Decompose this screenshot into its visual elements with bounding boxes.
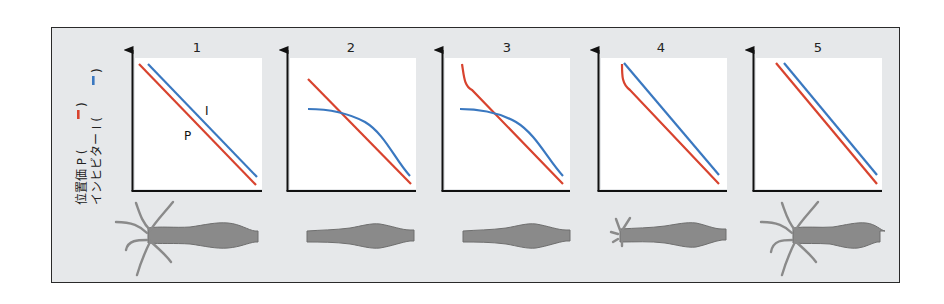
label-I: I — [205, 104, 209, 118]
panel-number: 4 — [657, 40, 665, 55]
svg-text:): ) — [75, 102, 89, 107]
plot-area — [135, 58, 262, 189]
panel-4: 4 — [598, 40, 728, 191]
panel-number: 3 — [503, 40, 511, 55]
figure-canvas: 位置価 P ( ) インヒビター I ( ) 1 I P 2 3 — [0, 0, 944, 304]
hydra-with-tentacles-icon — [761, 202, 885, 275]
plot-area — [601, 58, 727, 189]
svg-text:): ) — [90, 68, 104, 73]
legend-red-swatch-icon — [77, 110, 80, 119]
svg-text:位置価 P (: 位置価 P ( — [74, 149, 89, 205]
panel-5: 5 — [753, 40, 883, 191]
panel-number: 2 — [347, 40, 355, 55]
hydra-headless-body-icon — [307, 224, 414, 248]
panel-number: 5 — [814, 40, 822, 55]
hydra-regenerating-head-icon — [611, 218, 726, 247]
organism-row — [116, 202, 885, 275]
y-label-inhibitor: インヒビター I ( — [90, 117, 104, 205]
panel-1: 1 I P — [132, 40, 263, 191]
svg-text:インヒビター I (: インヒビター I ( — [90, 117, 104, 205]
panel-number: 1 — [193, 40, 201, 55]
legend-blue-swatch-icon — [92, 76, 95, 85]
hydra-headless-body-icon — [463, 224, 570, 248]
panel-2: 2 — [287, 40, 417, 191]
y-axis-label: 位置価 P ( ) インヒビター I ( ) — [74, 68, 104, 205]
hydra-with-tentacles-icon — [116, 202, 258, 275]
y-label-position-value: 位置価 P ( — [74, 149, 89, 205]
label-P: P — [184, 129, 191, 143]
panel-3: 3 — [442, 40, 571, 191]
plot-area — [756, 58, 882, 189]
